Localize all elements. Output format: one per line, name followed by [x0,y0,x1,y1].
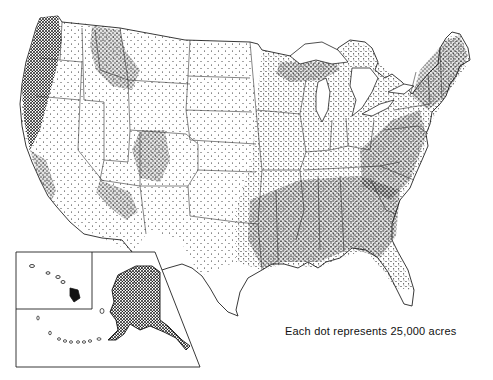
us-dot-density-map [0,0,493,380]
inset-frame [16,252,200,367]
legend-caption: Each dot represents 25,000 acres [285,325,457,337]
lake-superior [290,42,348,64]
